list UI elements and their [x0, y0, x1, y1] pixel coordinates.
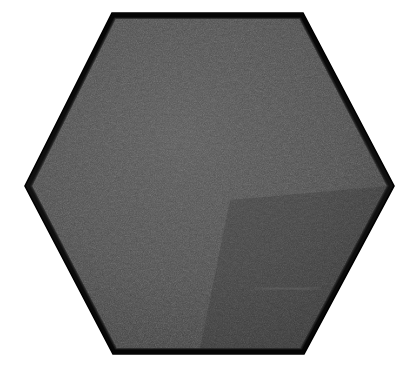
top-edge-band	[112, 13, 303, 18]
bottom-edge-band	[113, 350, 304, 355]
image-canvas: Flat-top hexagonal dark charcoal grey fe…	[0, 0, 419, 371]
hexagon-panel-photo	[0, 0, 419, 371]
sheen-streak-core	[262, 288, 310, 289]
